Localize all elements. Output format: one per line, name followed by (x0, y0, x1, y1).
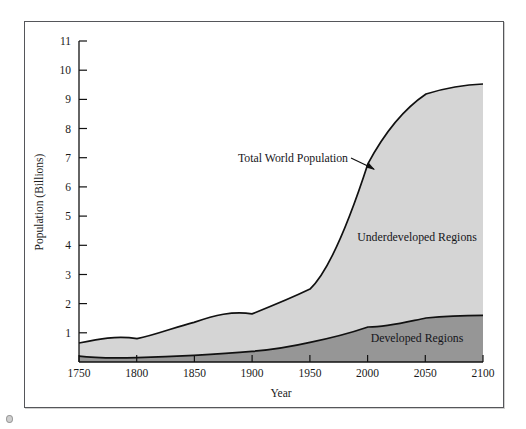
y-tick-label-8: 8 (65, 123, 71, 135)
x-axis-title: Year (270, 387, 291, 399)
annotation-total-world-population: Total World Population (238, 151, 348, 165)
y-tick-label-9: 9 (65, 93, 71, 105)
x-tick-label-1800: 1800 (125, 367, 148, 379)
y-tick-label-6: 6 (65, 181, 71, 193)
page-corner-mark (6, 415, 13, 423)
area-underdeveloped-regions (79, 84, 483, 358)
population-area-chart: 11 10 9 8 7 6 5 4 3 2 1 1750 1800 1850 1… (25, 22, 503, 407)
x-tick-label-2000: 2000 (356, 367, 379, 379)
x-tick-label-1850: 1850 (183, 367, 206, 379)
y-tick-label-4: 4 (65, 239, 71, 251)
y-tick-label-1: 1 (65, 327, 71, 339)
y-axis-ticks (79, 41, 87, 333)
y-tick-label-3: 3 (65, 269, 71, 281)
label-developed-regions: Developed Regions (371, 331, 464, 345)
label-underdeveloped-regions: Underdeveloped Regions (357, 230, 477, 244)
chart-frame: 11 10 9 8 7 6 5 4 3 2 1 1750 1800 1850 1… (24, 21, 504, 408)
y-tick-label-2: 2 (65, 298, 71, 310)
y-tick-label-5: 5 (65, 210, 71, 222)
x-tick-label-1750: 1750 (68, 367, 91, 379)
y-axis-title: Population (Billions) (33, 153, 46, 250)
x-tick-label-1900: 1900 (241, 367, 264, 379)
x-tick-label-2050: 2050 (414, 367, 437, 379)
x-tick-label-1950: 1950 (298, 367, 321, 379)
y-tick-label-10: 10 (60, 64, 72, 76)
x-tick-label-2100: 2100 (472, 367, 495, 379)
y-tick-label-11: 11 (60, 35, 71, 47)
y-tick-label-7: 7 (65, 152, 71, 164)
